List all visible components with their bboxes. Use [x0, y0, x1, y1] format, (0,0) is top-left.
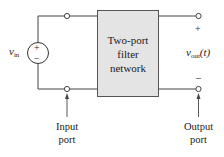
input-terminal-top: [64, 13, 69, 18]
vout-label: vout(t): [186, 47, 210, 60]
filter-network-label: Two-port filter network: [97, 10, 159, 97]
input-port-label: Input port: [42, 120, 92, 146]
input-bottom-wire: [38, 63, 64, 89]
input-terminal-bottom: [64, 86, 69, 91]
vin-label: vin: [9, 46, 19, 59]
output-port-label-line-1: Output: [174, 120, 224, 133]
input-port-label-line-2: port: [42, 133, 92, 146]
block-line-2: filter: [117, 47, 138, 61]
output-port-label: Output port: [174, 120, 224, 146]
block-line-3: network: [110, 61, 146, 75]
input-port-label-line-1: Input: [42, 120, 92, 133]
vout-label-sub: out: [191, 52, 200, 60]
output-plus-sign: +: [195, 24, 201, 34]
output-minus-sign: –: [196, 73, 201, 83]
output-terminal-bottom: [196, 86, 201, 91]
vin-label-sub: in: [14, 51, 19, 59]
output-terminal-top: [196, 13, 201, 18]
output-port-label-line-2: port: [174, 133, 224, 146]
source-plus-sign: +: [34, 43, 40, 53]
vout-label-arg: (t): [200, 46, 210, 58]
input-port-arrowhead-icon: [65, 93, 69, 99]
output-port-arrowhead-icon: [197, 93, 201, 99]
block-line-1: Two-port: [108, 33, 149, 47]
source-minus-sign: −: [34, 54, 40, 64]
input-top-wire: [38, 16, 64, 43]
